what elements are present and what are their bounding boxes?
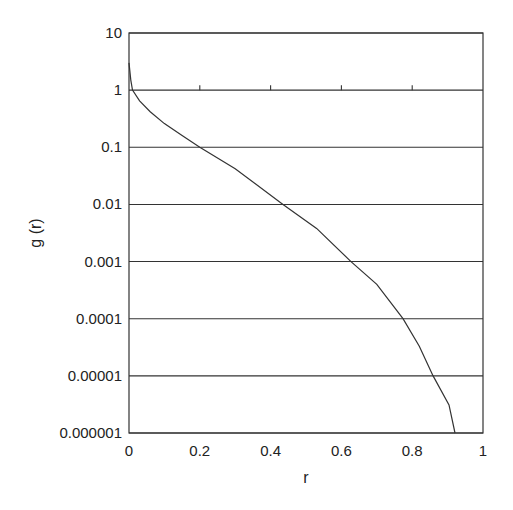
y-tick-label: 0.00001	[68, 367, 122, 384]
x-tick-labels: 00.20.40.60.81	[125, 442, 487, 459]
x-tick-marks	[200, 85, 412, 90]
y-tick-label: 0.0001	[76, 310, 122, 327]
x-tick-label: 0.2	[189, 442, 210, 459]
x-tick-label: 1	[479, 442, 487, 459]
y-tick-label: 0.000001	[59, 424, 122, 441]
y-tick-label: 0.1	[101, 138, 122, 155]
y-axis-label: g (r)	[27, 218, 44, 247]
plot-frame	[129, 33, 483, 433]
x-tick-label: 0.8	[402, 442, 423, 459]
y-tick-label: 0.01	[93, 195, 122, 212]
y-tick-labels: 1010.10.010.0010.00010.000010.000001	[59, 24, 122, 441]
x-tick-label: 0.6	[331, 442, 352, 459]
x-tick-label: 0.4	[260, 442, 281, 459]
gridlines	[129, 33, 483, 433]
y-tick-label: 10	[105, 24, 122, 41]
y-tick-label: 0.001	[84, 253, 122, 270]
x-axis-label: r	[303, 469, 309, 486]
data-line	[129, 63, 455, 433]
x-tick-label: 0	[125, 442, 133, 459]
chart: 1010.10.010.0010.00010.000010.000001 00.…	[0, 0, 513, 510]
y-tick-label: 1	[114, 81, 122, 98]
